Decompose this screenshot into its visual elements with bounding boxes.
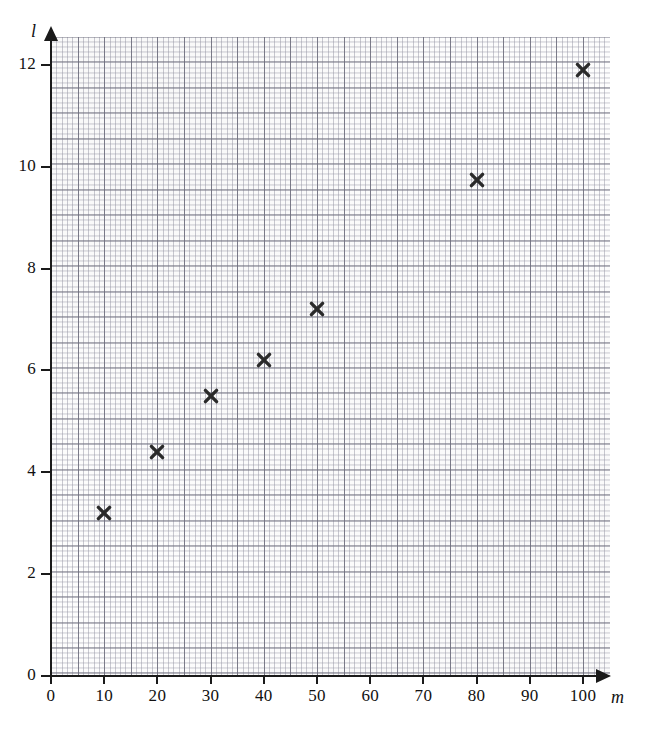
y-tick-label-8: 8	[0, 258, 36, 278]
x-axis-label: m	[611, 687, 624, 708]
y-tick-10	[41, 166, 51, 168]
x-tick-40	[263, 675, 265, 684]
y-tick-0	[41, 675, 51, 677]
x-tick-60	[369, 675, 371, 684]
x-tick-label-40: 40	[241, 686, 287, 706]
y-tick-label-12: 12	[0, 54, 36, 74]
graph-paper-grid	[51, 37, 610, 676]
x-tick-label-100: 100	[560, 686, 606, 706]
x-tick-10	[103, 675, 105, 684]
y-tick-label-10: 10	[0, 156, 36, 176]
x-tick-30	[210, 675, 212, 684]
x-tick-label-80: 80	[454, 686, 500, 706]
y-axis-line	[50, 40, 52, 677]
y-axis-label: l	[31, 21, 36, 42]
x-tick-80	[476, 675, 478, 684]
y-tick-2	[41, 573, 51, 575]
scatter-chart: 0102030405060708090100 024681012 m l	[0, 0, 646, 732]
x-tick-label-70: 70	[400, 686, 446, 706]
x-tick-100	[582, 675, 584, 684]
y-tick-label-0: 0	[0, 665, 36, 685]
x-tick-70	[422, 675, 424, 684]
x-tick-50	[316, 675, 318, 684]
y-tick-label-6: 6	[0, 359, 36, 379]
x-tick-label-0: 0	[28, 686, 74, 706]
y-tick-12	[41, 64, 51, 66]
x-tick-label-20: 20	[134, 686, 180, 706]
x-tick-label-60: 60	[347, 686, 393, 706]
x-tick-label-30: 30	[188, 686, 234, 706]
y-axis-arrow-icon	[44, 26, 58, 41]
y-tick-6	[41, 369, 51, 371]
x-tick-90	[529, 675, 531, 684]
x-axis-line	[43, 675, 600, 677]
y-tick-label-4: 4	[0, 461, 36, 481]
x-tick-label-10: 10	[81, 686, 127, 706]
x-tick-label-90: 90	[507, 686, 553, 706]
y-tick-4	[41, 471, 51, 473]
x-axis-arrow-icon	[596, 669, 611, 683]
y-tick-label-2: 2	[0, 563, 36, 583]
x-tick-label-50: 50	[294, 686, 340, 706]
x-tick-20	[156, 675, 158, 684]
y-tick-8	[41, 268, 51, 270]
